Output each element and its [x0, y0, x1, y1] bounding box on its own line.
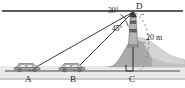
geometry-diagram: 30° 45° 20 m D A B C — [0, 0, 185, 88]
point-label-d: D — [136, 1, 143, 11]
point-label-a: A — [25, 74, 32, 84]
hill — [108, 38, 185, 67]
height-label-20m: 20 m — [146, 33, 163, 42]
point-label-c: C — [129, 74, 135, 84]
point-label-b: B — [70, 74, 76, 84]
angle-label-45: 45° — [112, 24, 123, 33]
angle-arc-45 — [126, 21, 129, 27]
lighthouse-tower — [128, 13, 139, 48]
angle-label-30: 30° — [108, 6, 119, 15]
diagram-canvas: 30° 45° 20 m D A B C — [0, 0, 185, 88]
